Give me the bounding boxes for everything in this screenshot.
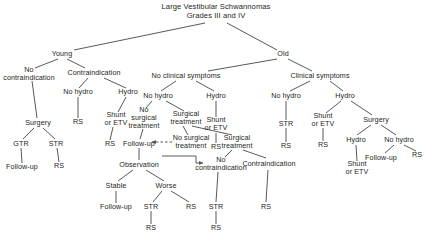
vestibular-schwannoma-decision-tree: Large Vestibular Schwannomas Grades III … [0, 0, 432, 244]
tree-edge [266, 170, 268, 202]
tree-edge [357, 125, 371, 135]
tree-edge [351, 101, 372, 115]
node-hydro_r2: Hydro [346, 136, 366, 144]
node-young: Young [52, 50, 72, 58]
tree-edge [290, 81, 310, 91]
tree-edge [216, 172, 218, 202]
tree-edge [74, 23, 205, 50]
node-followup_r: Follow-up [365, 154, 397, 162]
node-worse: Worse [156, 182, 177, 190]
node-old: Old [277, 50, 288, 58]
node-rs_shunt_c: RS [211, 143, 221, 151]
tree-edge [171, 191, 189, 202]
tree-edge [32, 81, 37, 118]
node-no_contra_c: No contraindication [195, 156, 247, 172]
node-no_contra_l: No contraindication [3, 66, 55, 82]
node-rs_contra_c: RS [261, 203, 271, 211]
tree-edge [288, 59, 312, 71]
node-rs_str_nocontra: RS [211, 224, 221, 232]
node-nohydro_l: No hydro [63, 88, 93, 96]
node-contra_l: Contraindication [67, 69, 120, 77]
tree-edge [21, 148, 22, 163]
node-stable: Stable [106, 182, 127, 190]
node-nohydro_c: No hydro [143, 92, 173, 100]
node-str_worse: STR [144, 203, 159, 211]
node-nosurg_c1: No surgical treatment [128, 106, 159, 131]
node-nosurg_c2: No surgical treatment [173, 134, 210, 150]
node-str_nocontra_c: STR [209, 203, 224, 211]
node-observation: Observation [119, 161, 159, 169]
tree-edge [196, 81, 214, 91]
node-followup_gtr: Follow-up [6, 163, 38, 171]
node-rs_str_l: RS [54, 162, 64, 170]
node-shunt_l: Shunt or ETV [105, 111, 128, 127]
node-clin: Clinical symptoms [290, 72, 349, 80]
node-contra_c: Contraindication [242, 160, 295, 168]
tree-edge [43, 128, 55, 139]
tree-edge [385, 145, 394, 153]
node-rs_shunt_r: RS [318, 141, 328, 149]
node-hydro_c: Hydro [206, 92, 226, 100]
node-str_r1: STR [279, 120, 294, 128]
node-followup_l: Follow-up [123, 140, 155, 148]
node-rs_shunt_l: RS [105, 140, 115, 148]
node-surgery_r: Surgery [363, 116, 389, 124]
tree-edge [227, 23, 277, 50]
node-surgtx_c: Surgical treatment [170, 110, 201, 126]
node-root: Large Vestibular Schwannomas Grades III … [162, 3, 271, 21]
tree-edge [23, 128, 34, 139]
node-nohydro_r: No hydro [271, 92, 301, 100]
tree-edge [67, 59, 85, 68]
tree-edge [140, 129, 143, 139]
node-shunt_r: Shunt or ETV [312, 112, 335, 128]
node-rs_nohydro_r: RS [412, 151, 422, 159]
node-rs_clin_nohydro: RS [281, 142, 291, 150]
node-gtr: GTR [13, 140, 28, 148]
tree-edge [118, 170, 133, 181]
node-rs_nohydro_l: RS [73, 118, 83, 126]
node-nohydro_r2: No hydro [384, 136, 414, 144]
node-hydro_r: Hydro [335, 92, 355, 100]
node-no_clin: No clinical symptoms [152, 72, 221, 80]
tree-edge [381, 125, 396, 135]
node-surgtx_c2: Surgical treatment [221, 134, 252, 150]
tree-edge [330, 81, 343, 91]
node-hydro_l: Hydro [118, 88, 138, 96]
node-str_l: STR [49, 140, 64, 148]
tree-edge [57, 148, 59, 162]
node-rs_str_worse: RS [146, 224, 156, 232]
tree-edge [161, 81, 176, 91]
node-rs_worse: RS [186, 203, 196, 211]
node-shunt_r2: Shunt or ETV [346, 160, 369, 176]
tree-edge [146, 170, 164, 181]
tree-edge [208, 59, 277, 71]
node-shunt_c: Shunt or ETV [205, 116, 228, 132]
node-surgery_l: Surgery [25, 119, 51, 127]
tree-edge [153, 191, 162, 202]
node-followup_stable: Follow-up [100, 203, 132, 211]
